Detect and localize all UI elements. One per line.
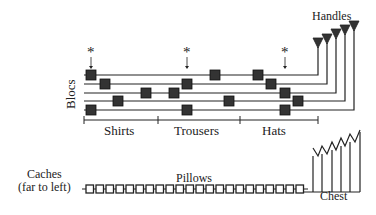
bloc-square — [182, 79, 192, 89]
pillow-square — [226, 185, 234, 193]
bloc-square — [169, 88, 179, 98]
asterisk-markers: *** — [87, 44, 289, 69]
handle-icon — [322, 34, 332, 44]
bloc-square — [266, 79, 276, 89]
bloc-square — [224, 96, 234, 106]
bloc-line — [84, 25, 350, 106]
bloc-square — [86, 105, 96, 115]
pillow-square — [206, 185, 214, 193]
caches-sublabel: (far to left) — [18, 180, 71, 194]
bloc-line — [84, 34, 332, 89]
trousers-label: Trousers — [174, 123, 219, 138]
pillow-square — [186, 185, 194, 193]
bloc-square — [210, 70, 220, 80]
pillow-square — [236, 185, 244, 193]
pillow-square — [246, 185, 254, 193]
pillow-square — [146, 185, 154, 193]
caches-label: Caches — [27, 167, 62, 181]
asterisk-marker: * — [87, 44, 95, 69]
pillow-square — [136, 185, 144, 193]
pillow-square — [296, 185, 304, 193]
pillow-square — [166, 185, 174, 193]
handle-icon — [340, 25, 350, 35]
pillow-square — [256, 185, 264, 193]
bloc-square — [253, 70, 263, 80]
pillows-label: Pillows — [176, 171, 212, 185]
bloc-square — [182, 105, 192, 115]
pillow-square — [176, 185, 184, 193]
pillow-square — [156, 185, 164, 193]
blocs-label: Blocs — [63, 79, 78, 109]
pillow-square — [106, 185, 114, 193]
hats-label: Hats — [262, 123, 286, 138]
bloc-square — [141, 88, 151, 98]
pillow-square — [86, 185, 94, 193]
pillow-square — [116, 185, 124, 193]
bloc-square — [86, 70, 96, 80]
pillow-chain — [82, 185, 308, 193]
pillow-square — [96, 185, 104, 193]
bloc-square — [113, 96, 123, 106]
handle-icon — [313, 38, 323, 48]
bloc-square — [280, 105, 290, 115]
chest-structure — [304, 130, 360, 192]
bloc-diagram: *** Handles Blocs Shirts Trousers Hats C… — [0, 0, 376, 215]
bloc-square — [100, 79, 110, 89]
pillow-square — [216, 185, 224, 193]
shirts-label: Shirts — [104, 123, 134, 138]
bloc-line — [84, 29, 341, 98]
handle-icon — [331, 29, 341, 39]
bloc-square — [280, 88, 290, 98]
bloc-lines — [84, 21, 359, 115]
pillow-square — [266, 185, 274, 193]
pillow-square — [286, 185, 294, 193]
asterisk-marker: * — [281, 44, 289, 69]
pillow-square — [196, 185, 204, 193]
asterisk-marker: * — [183, 44, 191, 69]
handles-label: Handles — [312, 9, 352, 23]
bloc-square — [293, 96, 303, 106]
pillow-square — [126, 185, 134, 193]
chest-label: Chest — [320, 189, 348, 203]
pillow-square — [276, 185, 284, 193]
